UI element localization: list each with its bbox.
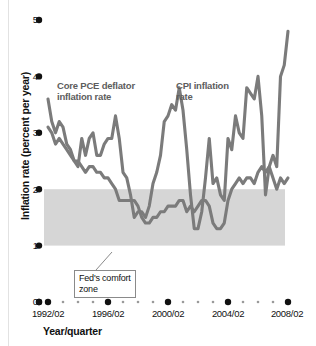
y-tick-label-0: 0 — [24, 296, 38, 307]
x-tick-dot-2003-02 — [212, 301, 215, 304]
fed-comfort-zone-band — [44, 189, 285, 245]
inflation-chart-figure: Core PCE deflator inflation rate CPI inf… — [0, 0, 316, 346]
x-tick-dot-2004-02 — [225, 299, 231, 305]
x-tick-dot-1996-02 — [105, 299, 111, 305]
x-tick-label-2004: 2004/02 — [200, 308, 256, 319]
x-tick-dot-2008-02 — [285, 299, 291, 305]
x-tick-dot-1994-02 — [77, 301, 80, 304]
series-label-core-pce: Core PCE deflator inflation rate — [57, 80, 135, 102]
y-axis-title: Inflation rate (percent per year) — [19, 51, 31, 241]
x-tick-dot-1997-02 — [122, 301, 125, 304]
x-tick-dot-1993-02 — [62, 301, 65, 304]
x-tick-dot-2005-02 — [242, 301, 245, 304]
x-tick-dot-2006-02 — [257, 301, 260, 304]
comfort-zone-callout: Fed's comfort zone — [74, 270, 136, 298]
x-axis-tick-dots — [36, 299, 291, 305]
x-tick-dot-1995-02 — [92, 301, 95, 304]
x-tick-dot-1998-02 — [137, 301, 140, 304]
x-tick-label-1992: 1992/02 — [20, 308, 76, 319]
x-tick-dot-2001-02 — [182, 301, 185, 304]
y-axis-tick-dots — [36, 17, 42, 305]
x-tick-label-1996: 1996/02 — [80, 308, 136, 319]
x-tick-dot-2002-02 — [197, 301, 200, 304]
x-tick-label-2008: 2008/02 — [259, 308, 315, 319]
x-tick-label-2000: 2000/02 — [140, 308, 196, 319]
x-tick-dot-1999-02 — [152, 301, 155, 304]
x-tick-dot-1992-02 — [45, 299, 51, 305]
x-axis-title: Year/quarter — [43, 325, 102, 337]
callout-leader-line — [96, 252, 112, 270]
series-label-cpi: CPI inflation rate — [176, 80, 229, 102]
chart-plot-area — [0, 0, 316, 346]
y-tick-label-1: 1 — [24, 240, 38, 251]
x-tick-dot-2007-02 — [272, 301, 275, 304]
y-tick-label-5: 5 — [24, 14, 38, 25]
x-tick-dot-2000-02 — [165, 299, 171, 305]
